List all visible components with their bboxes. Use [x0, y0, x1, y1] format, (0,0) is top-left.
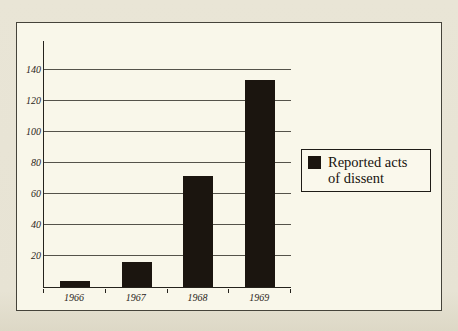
plot-area [43, 41, 291, 288]
bar-1968 [183, 176, 213, 287]
legend: Reported acts of dissent [301, 149, 431, 192]
y-axis-tick-label: 60 [17, 189, 41, 199]
x-axis-label-1966: 1966 [52, 293, 96, 303]
x-axis-tick [105, 289, 106, 293]
y-axis-tick-label: 120 [17, 96, 41, 106]
x-axis-label-1967: 1967 [114, 293, 158, 303]
y-axis-tick-label: 20 [17, 251, 41, 261]
x-axis-tick [167, 289, 168, 293]
y-axis-tick-label: 40 [17, 220, 41, 230]
bar-1969 [245, 80, 275, 287]
bar-1966 [60, 281, 90, 287]
x-axis-label-1969: 1969 [237, 293, 281, 303]
legend-swatch-icon [308, 156, 321, 169]
y-axis-tick-label: 80 [17, 158, 41, 168]
chart-frame: Reported acts of dissent 204060801001201… [16, 22, 442, 311]
y-axis-tick-label: 140 [17, 65, 41, 75]
legend-label-line2: of dissent [328, 170, 407, 186]
x-axis-tick [43, 289, 44, 293]
legend-label-line1: Reported acts [328, 154, 407, 170]
gridline-y140 [44, 69, 291, 70]
x-axis-label-1968: 1968 [175, 293, 219, 303]
y-axis-tick-label: 100 [17, 127, 41, 137]
x-axis-tick [228, 289, 229, 293]
scanned-page: { "page": { "background_color": "#e8e4d5… [0, 0, 458, 331]
x-axis-tick [290, 289, 291, 293]
legend-label: Reported acts of dissent [328, 154, 407, 186]
bar-1967 [122, 262, 152, 287]
